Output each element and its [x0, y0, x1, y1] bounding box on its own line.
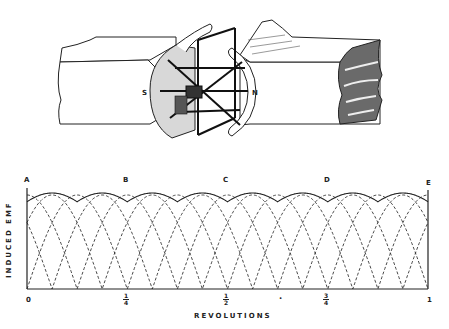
- label-c: C: [223, 176, 229, 184]
- coil-emf-curve: [27, 195, 428, 289]
- x-tick-0: 0: [26, 296, 31, 304]
- coil-emf-curve: [27, 195, 428, 289]
- coil-emf-dashed-curves: [27, 195, 428, 289]
- x-tick-half: 12: [221, 293, 231, 306]
- x-axis-label: REVOLUTIONS: [194, 312, 272, 320]
- y-axis-label: INDUCED EMF: [5, 201, 13, 278]
- x-tick-1: 1: [427, 296, 432, 304]
- dot-marker: •: [279, 295, 283, 301]
- x-tick-quarter: 14: [121, 293, 131, 306]
- label-d: D: [324, 176, 330, 184]
- label-a: A: [24, 176, 30, 184]
- resultant-emf-envelope: [27, 193, 428, 202]
- x-tick-three-quarter: 34: [321, 293, 331, 306]
- induced-emf-chart: [0, 0, 449, 329]
- label-e: E: [426, 179, 431, 187]
- coil-emf-curve: [27, 195, 428, 289]
- label-b: B: [123, 176, 129, 184]
- coil-emf-curve: [27, 195, 428, 289]
